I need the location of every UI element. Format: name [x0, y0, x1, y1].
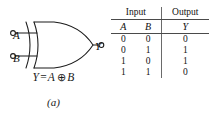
output-y-label: Y — [95, 41, 101, 52]
xor-operator-icon: ⊕ — [55, 71, 67, 83]
equation-equals: = — [39, 71, 48, 83]
caption-b: (b) — [214, 96, 215, 108]
figure-xor-gate-and-truth-table: A B Y Y=A⊕B (a) Input Output A B Y 0 — [0, 0, 215, 120]
caption-a: (a) — [0, 96, 107, 108]
cell-a: 0 — [111, 34, 136, 46]
table-column-header-row: A B Y — [111, 20, 209, 34]
cell-b: 0 — [136, 56, 161, 67]
panel-a-gate-schematic: A B Y Y=A⊕B (a) — [0, 0, 107, 120]
cell-a: 1 — [111, 67, 136, 78]
column-header-b: B — [136, 20, 161, 34]
xor-outer-arc — [26, 22, 30, 68]
input-a-label: A — [13, 30, 20, 41]
xor-gate-symbol — [8, 20, 107, 70]
cell-a: 1 — [111, 56, 136, 67]
cell-y: 1 — [161, 45, 209, 56]
table-row: 0 0 0 — [111, 34, 209, 46]
column-header-y: Y — [161, 20, 209, 34]
table-row: 0 1 1 — [111, 45, 209, 56]
cell-a: 0 — [111, 45, 136, 56]
boolean-equation: Y=A⊕B — [0, 71, 107, 84]
group-header-output: Output — [161, 7, 209, 20]
cell-b: 1 — [136, 67, 161, 78]
gate-body-outline — [34, 22, 93, 68]
cell-b: 1 — [136, 45, 161, 56]
input-b-label: B — [13, 53, 20, 64]
panel-b-truth-table: Input Output A B Y 0 0 0 0 1 1 — [107, 0, 215, 120]
cell-y: 1 — [161, 56, 209, 67]
group-header-input: Input — [111, 7, 161, 20]
cell-y: 0 — [161, 67, 209, 78]
table-group-header-row: Input Output — [111, 7, 209, 20]
column-header-a: A — [111, 20, 136, 34]
equation-operand-left: A — [48, 71, 55, 83]
cell-y: 0 — [161, 34, 209, 46]
equation-operand-right: B — [67, 71, 74, 83]
cell-b: 0 — [136, 34, 161, 46]
table-row: 1 0 1 — [111, 56, 209, 67]
table-row: 1 1 0 — [111, 67, 209, 78]
gate-back-arc — [34, 22, 38, 68]
truth-table: Input Output A B Y 0 0 0 0 1 1 — [111, 7, 209, 78]
